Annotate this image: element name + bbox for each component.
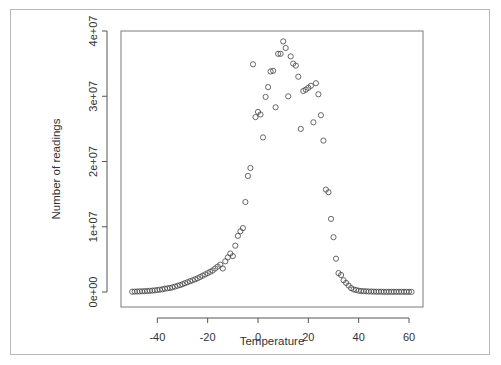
y-tick-label: 4e+07	[87, 16, 99, 47]
data-point	[296, 74, 301, 79]
data-point	[248, 165, 253, 170]
data-point	[250, 62, 255, 67]
plot-area-box	[121, 31, 423, 307]
data-point	[281, 39, 286, 44]
data-point	[220, 266, 225, 271]
data-point	[313, 81, 318, 86]
x-axis-title: Temperature	[240, 335, 305, 347]
data-point	[283, 45, 288, 50]
x-tick-label: -20	[200, 331, 216, 343]
x-tick-label: 40	[353, 331, 365, 343]
data-point	[311, 120, 316, 125]
y-tick-label: 3e+07	[87, 81, 99, 112]
data-point	[328, 216, 333, 221]
y-axis-title: Number of readings	[50, 118, 62, 219]
data-point	[321, 138, 326, 143]
data-point	[298, 126, 303, 131]
y-tick-label: 2e+07	[87, 146, 99, 177]
data-point	[223, 259, 228, 264]
data-point	[260, 135, 265, 140]
data-point	[266, 85, 271, 90]
data-point	[243, 199, 248, 204]
data-point	[333, 256, 338, 261]
data-points	[130, 39, 415, 295]
data-point	[263, 94, 268, 99]
data-point	[253, 115, 258, 120]
data-point	[245, 173, 250, 178]
x-tick-label: 60	[403, 331, 415, 343]
data-point	[233, 243, 238, 248]
x-tick-label: -40	[149, 331, 165, 343]
scatter-plot: 0e+001e+072e+073e+074e+07 -40-200204060 …	[0, 0, 501, 365]
y-tick-label: 1e+07	[87, 211, 99, 242]
y-tick-label: 0e+00	[87, 277, 99, 308]
data-point	[225, 255, 230, 260]
data-point	[331, 235, 336, 240]
data-point	[288, 54, 293, 59]
data-point	[286, 94, 291, 99]
data-point	[316, 92, 321, 97]
data-point	[273, 105, 278, 110]
data-point	[318, 113, 323, 118]
y-axis: 0e+001e+072e+073e+074e+07	[87, 16, 107, 308]
